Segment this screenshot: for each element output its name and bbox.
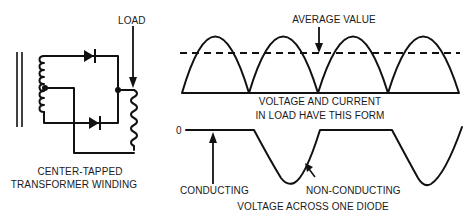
transformer-core-icon xyxy=(17,52,22,127)
conducting-arrow-icon xyxy=(209,132,217,184)
load-resistor-icon xyxy=(131,90,137,150)
non-conducting-label: NON-CONDUCTING xyxy=(306,185,401,196)
average-value-label: AVERAGE VALUE xyxy=(292,14,376,25)
conducting-label: CONDUCTING xyxy=(180,185,249,196)
load-caption-line2: IN LOAD HAVE THIS FORM xyxy=(255,110,384,121)
circuit-caption-line2: TRANSFORMER WINDING xyxy=(11,179,137,190)
average-arrow-icon xyxy=(315,27,323,53)
non-conducting-arrow-icon xyxy=(305,163,315,177)
full-wave-rectifier-diagram: LOAD CENTER-TAPPED TRANSFORMER WINDING A… xyxy=(0,0,470,219)
zero-level-label: 0 xyxy=(176,125,182,136)
lower-wire xyxy=(44,90,118,123)
secondary-winding-icon xyxy=(40,56,45,112)
load-label: LOAD xyxy=(118,15,146,26)
circuit-schematic: LOAD CENTER-TAPPED TRANSFORMER WINDING xyxy=(11,15,146,190)
load-waveform: AVERAGE VALUE VOLTAGE AND CURRENT IN LOA… xyxy=(180,14,460,121)
load-caption-line1: VOLTAGE AND CURRENT xyxy=(259,96,382,107)
load-arrow-icon xyxy=(129,26,137,88)
diode-upper-icon xyxy=(84,49,95,63)
diode-lower-icon xyxy=(89,116,100,130)
circuit-caption-line1: CENTER-TAPPED xyxy=(37,166,122,177)
upper-wire xyxy=(44,56,118,90)
diode-waveform: 0 CONDUCTING NON-CONDUCTING VOLTAGE ACRO… xyxy=(176,125,462,212)
diode-voltage-curve xyxy=(186,127,462,185)
diode-caption: VOLTAGE ACROSS ONE DIODE xyxy=(237,201,389,212)
